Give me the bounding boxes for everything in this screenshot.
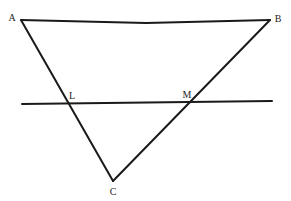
side-ac <box>21 20 113 181</box>
geometry-figure: A B C L M <box>0 0 291 201</box>
transversal-line <box>22 101 272 104</box>
vertex-label-a: A <box>8 13 15 23</box>
vertex-label-b: B <box>275 14 282 24</box>
figure-canvas <box>0 0 291 201</box>
side-ab <box>21 20 270 23</box>
point-label-l: L <box>69 91 75 101</box>
vertex-label-c: C <box>110 187 117 197</box>
point-label-m: M <box>183 90 192 100</box>
